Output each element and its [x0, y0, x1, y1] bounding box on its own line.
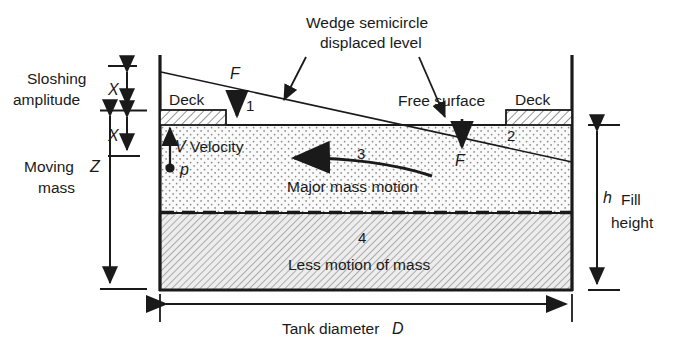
sloshing-tank-diagram: X X Z Sloshing amplitude Moving mass Dec… [0, 0, 682, 346]
region-number-1: 1 [246, 97, 254, 114]
sloshing-amplitude-line1: Sloshing [27, 70, 86, 87]
deck-right [506, 110, 572, 125]
deck-right-label: Deck [515, 91, 551, 108]
dimension-x-upper: X [107, 72, 127, 105]
point-p-marker [165, 163, 174, 172]
point-p-symbol: p [179, 161, 189, 178]
left-dimension-ticks [100, 66, 147, 289]
z-symbol: Z [89, 158, 101, 175]
dimension-z: Z [89, 116, 110, 283]
fill-height-word2: height [611, 214, 654, 231]
h-symbol: h [603, 189, 612, 206]
deck-left-label: Deck [169, 91, 205, 108]
f-right-symbol: F [455, 152, 466, 169]
moving-mass-label: Moving mass [24, 158, 75, 196]
less-motion-label: Less motion of mass [288, 256, 430, 273]
deck-left [160, 110, 226, 125]
free-surface-label: Free surface [398, 92, 485, 109]
x-lower-symbol: X [107, 127, 120, 144]
lower-fluid-region [160, 213, 572, 290]
tank-diameter-dimension: Tank diameter D [160, 294, 572, 337]
tank-diameter-label: Tank diameter [282, 320, 379, 337]
sloshing-amplitude-line2: amplitude [13, 91, 80, 108]
x-upper-symbol: X [107, 81, 120, 98]
region-number-2: 2 [507, 127, 515, 144]
region-number-4: 4 [358, 229, 366, 246]
region-number-3: 3 [357, 145, 365, 162]
fill-height-dimension: h Fill height [588, 125, 654, 290]
f-left-symbol: F [230, 65, 241, 82]
moving-mass-line1: Moving [24, 158, 74, 175]
major-mass-motion-label: Major mass motion [287, 178, 418, 195]
moving-mass-line2: mass [38, 179, 75, 196]
sloshing-amplitude-label: Sloshing amplitude [13, 70, 86, 108]
velocity-label: Velocity [190, 138, 244, 155]
d-symbol: D [392, 320, 404, 337]
wedge-annotation-line1: Wedge semicircle [306, 14, 428, 31]
diagram-canvas: X X Z Sloshing amplitude Moving mass Dec… [0, 0, 682, 346]
velocity-symbol: V [175, 138, 187, 155]
wedge-annotation-line2: displaced level [320, 34, 422, 51]
fill-height-word1: Fill [621, 191, 641, 208]
